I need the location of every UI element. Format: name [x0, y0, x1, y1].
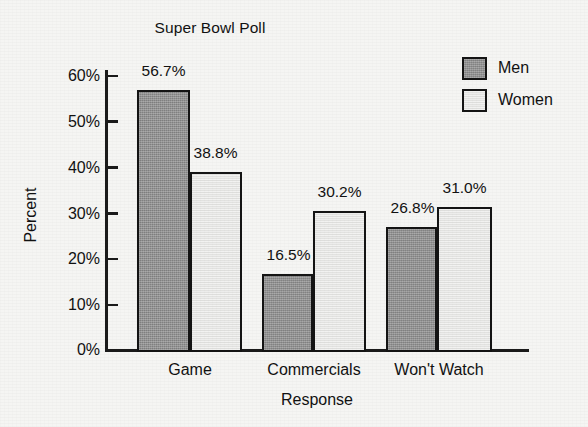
y-axis-title: Percent: [22, 170, 40, 260]
y-axis-line: [105, 70, 108, 352]
legend-swatch-men-icon: [462, 57, 487, 80]
legend-item-men[interactable]: Men: [462, 52, 553, 84]
bar-wont-watch-men[interactable]: [386, 227, 437, 352]
legend-swatch-women-icon: [462, 89, 487, 112]
bar-game-women[interactable]: [190, 172, 242, 352]
legend: Men Women: [462, 52, 553, 116]
y-tick-20: [107, 258, 118, 261]
x-category-label-wont-watch: Won't Watch: [383, 361, 495, 379]
y-tick-50: [107, 120, 118, 123]
bar-wont-watch-women[interactable]: [437, 207, 492, 352]
y-tick-label-10: 10%: [42, 297, 100, 313]
legend-label-men: Men: [498, 60, 529, 76]
x-axis-title: Response: [105, 391, 529, 409]
bar-value-game-women: 38.8%: [169, 145, 262, 161]
legend-label-women: Women: [498, 92, 553, 108]
x-category-label-commercials: Commercials: [258, 361, 370, 379]
bar-chart: Super Bowl Poll 60% 50% 40% 30% 20% 10% …: [0, 0, 588, 427]
x-category-label-game: Game: [135, 361, 245, 379]
chart-title: Super Bowl Poll: [0, 19, 588, 37]
y-tick-30: [107, 212, 118, 215]
bar-commercials-women[interactable]: [313, 211, 366, 352]
y-tick-label-40: 40%: [42, 160, 100, 176]
legend-item-women[interactable]: Women: [462, 84, 553, 116]
y-tick-label-50: 50%: [42, 114, 100, 130]
bar-game-men[interactable]: [137, 90, 190, 352]
y-tick-label-20: 20%: [42, 251, 100, 267]
y-tick-10: [107, 304, 118, 307]
bar-commercials-men[interactable]: [262, 274, 313, 352]
bar-value-wont-watch-women: 31.0%: [418, 180, 511, 196]
y-tick-label-60: 60%: [42, 68, 100, 84]
bar-value-game-men: 56.7%: [117, 63, 210, 79]
y-tick-label-0: 0%: [42, 342, 100, 358]
bar-value-commercials-women: 30.2%: [293, 184, 386, 200]
y-tick-40: [107, 166, 118, 169]
y-tick-label-30: 30%: [42, 206, 100, 222]
